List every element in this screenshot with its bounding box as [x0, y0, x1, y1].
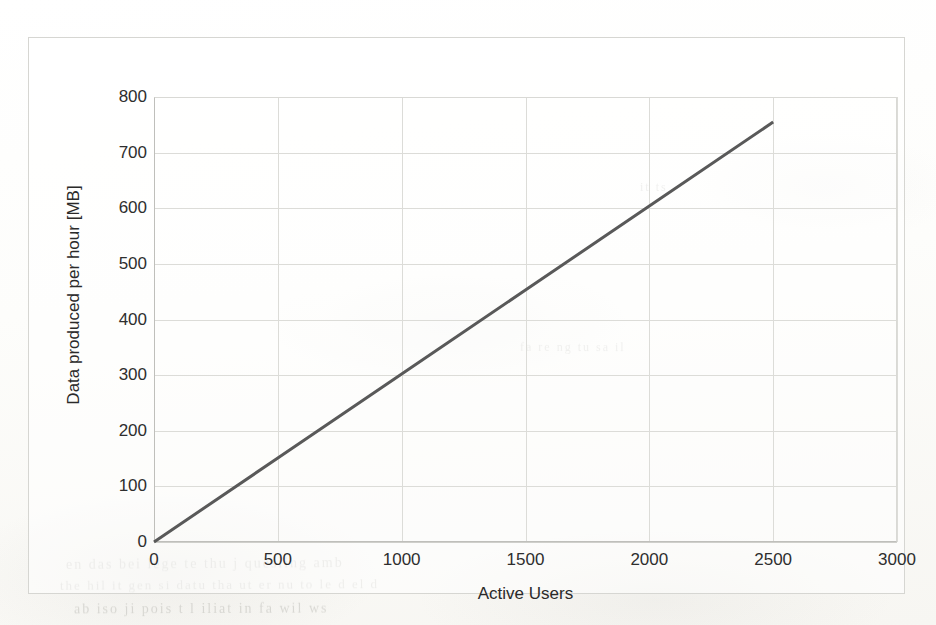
x-tick-label-2000: 2000	[630, 550, 668, 570]
y-tick-label-200: 200	[87, 421, 147, 441]
x-tick-label-500: 500	[264, 550, 292, 570]
x-axis-title: Active Users	[154, 584, 897, 604]
y-tick-label-500: 500	[87, 254, 147, 274]
y-tick-label-400: 400	[87, 310, 147, 330]
gridline-v-3000	[897, 97, 898, 542]
y-tick-label-100: 100	[87, 476, 147, 496]
x-tick-label-1500: 1500	[507, 550, 545, 570]
y-tick-label-300: 300	[87, 365, 147, 385]
y-axis-tick-labels: 0100200300400500600700800	[77, 97, 147, 542]
chart-frame: 0100200300400500600700800 05001000150020…	[28, 37, 905, 594]
gridline-h-0	[154, 542, 897, 543]
series-line-0	[154, 122, 773, 542]
plot-area	[154, 97, 897, 542]
x-tick-label-2500: 2500	[754, 550, 792, 570]
y-tick-label-0: 0	[87, 532, 147, 552]
x-tick-label-1000: 1000	[383, 550, 421, 570]
x-axis-tick-labels: 050010001500200025003000	[154, 550, 897, 576]
y-tick-label-700: 700	[87, 143, 147, 163]
y-axis-title: Data produced per hour [MB]	[64, 85, 84, 505]
y-tick-label-600: 600	[87, 198, 147, 218]
x-tick-label-3000: 3000	[878, 550, 916, 570]
x-tick-label-0: 0	[149, 550, 158, 570]
data-series-line	[154, 97, 897, 542]
y-tick-label-800: 800	[87, 87, 147, 107]
